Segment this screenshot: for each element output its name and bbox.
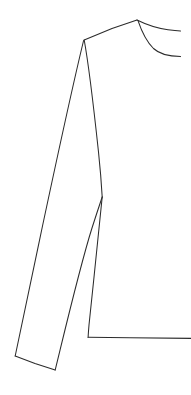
sleeve-inner-edge: Sleeve inner edge / underarm seam [55, 197, 102, 370]
sleeve-cuff: Sleeve cuff opening [15, 356, 55, 370]
sleeve-outer-edge: Sleeve outer edge [15, 41, 83, 357]
armhole-body-seam: Armhole / front body seam [84, 40, 102, 197]
garment-outline-group: Neckline outer curveNeckline inner curve… [15, 20, 191, 370]
neckline-inner-curve: Neckline inner curve [138, 21, 181, 57]
shoulder-seam: Shoulder seam [84, 20, 137, 40]
garment-sketch: Garment Technical Sketch Monochrome outl… [0, 0, 191, 395]
sketch-canvas: Garment Technical Sketch Monochrome outl… [0, 0, 191, 395]
hem-line: Bottom hem line [88, 337, 191, 338]
neckline-outer-curve: Neckline outer curve [137, 20, 181, 31]
